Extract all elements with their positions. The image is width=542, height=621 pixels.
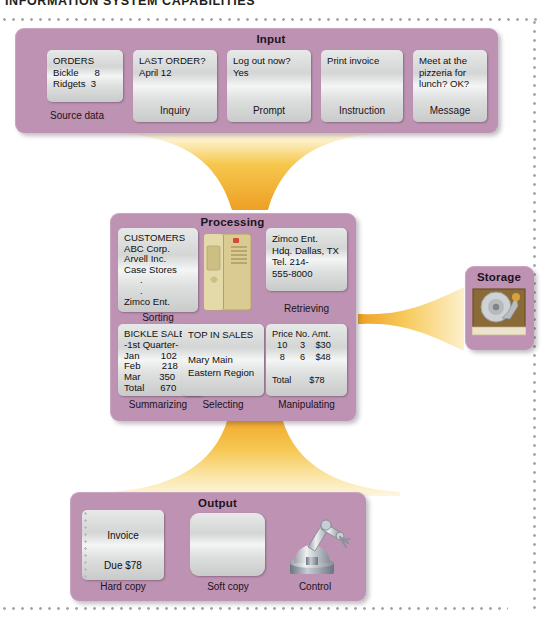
tile-selecting-text: TOP IN SALES Mary Main Eastern Region [188,329,261,379]
robot-arm-icon [280,507,352,579]
flow-processing-to-storage [358,288,464,350]
tile-sorting-text: CUSTOMERS ABC Corp. Arvell Inc. Case Sto… [124,233,195,307]
tile-sorting[interactable]: CUSTOMERS ABC Corp. Arvell Inc. Case Sto… [118,228,198,312]
page-title: INFORMATION SYSTEM CAPABILITIES [5,0,255,8]
tile-soft-copy[interactable] [190,513,265,576]
panel-title-processing: Processing [110,216,355,228]
caption-source-data: Source data [17,110,137,121]
caption-retrieving: Retrieving [266,303,347,314]
tile-hard-copy-line-bottom: Due $78 [82,560,164,571]
tile-source-data[interactable]: ORDERS Bickle 8 Ridgets 3 [47,50,123,102]
tile-source-data-text: ORDERS Bickle 8 Ridgets 3 [53,55,120,90]
caption-inquiry: Inquiry [133,105,217,116]
flow-processing-to-output [110,418,400,496]
tile-retrieving[interactable]: Zimco Ent. Hdq. Dallas, TX Tel. 214- 555… [266,228,347,291]
dotted-border-top [0,18,542,21]
tile-instruction-text: Print invoice [327,55,400,67]
caption-message: Message [413,105,487,116]
panel-title-storage: Storage [465,271,533,283]
flow-input-to-processing [100,126,400,210]
tile-inquiry-text: LAST ORDER? April 12 [139,55,214,78]
tile-prompt-text: Log out now? Yes [233,55,308,78]
panel-title-input: Input [0,33,542,45]
tile-selecting[interactable]: TOP IN SALES Mary Main Eastern Region [182,324,264,396]
caption-prompt: Prompt [227,105,311,116]
tile-hard-copy-line-top: Invoice [82,530,164,541]
dotted-border-bottom [0,607,508,610]
hard-disk-drive-icon [472,288,526,336]
diagram-root: INFORMATION SYSTEM CAPABILITIES [0,0,542,621]
caption-sorting: Sorting [118,312,198,323]
tile-manipulating-text: Price No. Amt. 10 3 $30 8 6 $48 Total $7… [272,329,344,386]
tile-hard-copy[interactable]: Invoice Due $78 [82,510,164,580]
tile-retrieving-text: Zimco Ent. Hdq. Dallas, TX Tel. 214- 555… [272,233,344,279]
tile-manipulating[interactable]: Price No. Amt. 10 3 $30 8 6 $48 Total $7… [266,324,347,396]
caption-manipulating: Manipulating [260,399,353,410]
caption-soft-copy: Soft copy [186,581,270,592]
caption-control: Control [278,581,352,592]
tile-message-text: Meet at the pizzeria for lunch? OK? [419,55,484,90]
computer-tower-icon [203,232,253,312]
caption-instruction: Instruction [321,105,403,116]
caption-selecting: Selecting [178,399,268,410]
caption-hard-copy: Hard copy [74,581,172,592]
